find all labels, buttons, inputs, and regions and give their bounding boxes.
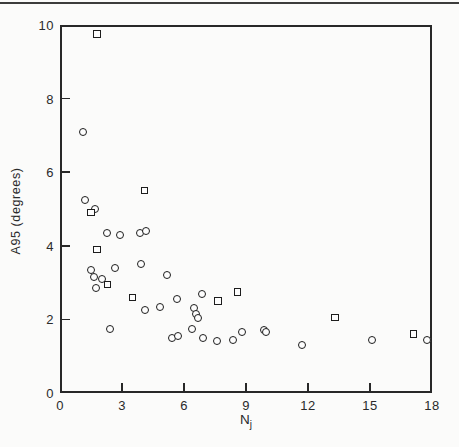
x-axis-title: Nj [226,412,266,430]
data-point-square [214,297,222,305]
x-tick-label: 18 [417,398,447,413]
data-point-square [234,288,242,296]
x-tick-label: 6 [169,398,199,413]
x-tick-label: 15 [355,398,385,413]
data-point-square [87,209,95,217]
data-point-circle [111,264,119,272]
data-point-square [410,330,418,338]
data-point-circle [298,341,306,349]
y-tick [62,98,70,100]
data-point-circle [174,332,182,340]
data-point-circle [423,336,431,344]
data-point-circle [79,128,87,136]
y-tick-label: 4 [20,239,54,254]
data-point-circle [198,290,206,298]
data-point-circle [156,303,164,311]
data-point-circle [173,295,181,303]
data-point-circle [106,325,114,333]
data-point-circle [116,231,124,239]
x-tick-label: 3 [107,398,137,413]
data-point-square [141,187,149,195]
x-axis-title-subscript: j [250,419,252,430]
data-point-circle [199,334,207,342]
y-tick-label: 10 [20,18,54,33]
y-tick [62,245,70,247]
y-axis-title: A95 (degrees) [9,136,25,286]
y-tick-label: 2 [20,312,54,327]
page-rule [0,2,459,4]
data-point-square [93,246,101,254]
data-point-circle [141,306,149,314]
data-point-circle [137,260,145,268]
data-point-circle [81,196,89,204]
data-point-circle [262,328,270,336]
y-tick-label: 6 [20,165,54,180]
data-point-circle [229,336,237,344]
x-tick [307,383,309,391]
scatter-plot-figure: 03691215180246810 A95 (degrees) Nj [0,0,459,447]
data-point-circle [103,229,111,237]
y-tick [62,171,70,173]
data-point-square [104,281,112,289]
x-tick-label: 12 [293,398,323,413]
x-tick [121,383,123,391]
x-tick [183,383,185,391]
data-point-circle [368,336,376,344]
y-tick-label: 0 [20,386,54,401]
data-point-square [129,294,137,302]
x-tick-label: 9 [231,398,261,413]
plot-area [60,25,432,393]
data-point-square [331,314,339,322]
data-point-circle [142,227,150,235]
y-tick-label: 8 [20,92,54,107]
x-tick [245,383,247,391]
data-point-circle [188,325,196,333]
y-tick [62,319,70,321]
x-axis-title-base: N [240,412,250,427]
x-tick [369,383,371,391]
data-point-square [93,30,101,38]
